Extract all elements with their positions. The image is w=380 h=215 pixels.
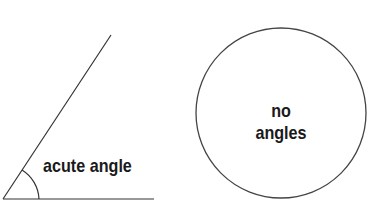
angle-arc <box>22 170 39 199</box>
circle-label-line2: angles <box>239 122 324 144</box>
diagram: acute angle no angles <box>0 0 380 215</box>
circle-label-line1: no <box>239 100 324 122</box>
acute-angle-label: acute angle <box>43 155 132 177</box>
circle-label: no angles <box>239 100 324 144</box>
